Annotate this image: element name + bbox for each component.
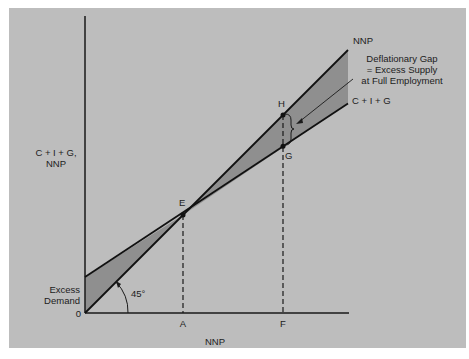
y-axis-label-line2: NNP xyxy=(46,158,66,169)
point-g xyxy=(281,144,286,149)
marker-f-label: F xyxy=(280,318,286,329)
y-axis-label-line1: C + I + G, xyxy=(35,147,76,158)
keynesian-cross-diagram: NNP C + I + G Deflationary Gap = Excess … xyxy=(0,0,469,359)
point-g-label: G xyxy=(285,150,292,161)
cig-line-label: C + I + G xyxy=(352,95,391,106)
gap-annotation-line3: at Full Employment xyxy=(361,75,443,86)
x-axis-label: NNP xyxy=(205,336,225,347)
point-e xyxy=(181,213,186,218)
gap-annotation-line1: Deflationary Gap xyxy=(366,53,437,64)
point-e-label: E xyxy=(179,197,185,208)
gap-annotation-line2: = Excess Supply xyxy=(367,64,438,75)
excess-demand-label-line1: Excess xyxy=(49,284,80,295)
origin-label: 0 xyxy=(76,308,81,319)
nnp-line-label: NNP xyxy=(353,35,373,46)
point-h-label: H xyxy=(278,98,285,109)
point-h xyxy=(281,113,286,118)
angle-label: 45° xyxy=(131,288,146,299)
marker-a-label: A xyxy=(180,318,187,329)
cig-line xyxy=(85,103,348,277)
excess-demand-label-line2: Demand xyxy=(44,295,80,306)
nnp-45-degree-line xyxy=(85,50,348,313)
